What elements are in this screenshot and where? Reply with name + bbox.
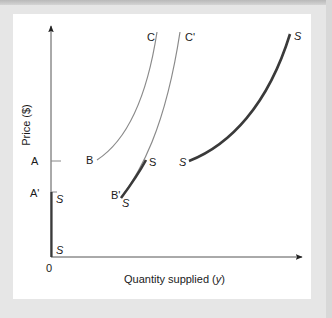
label-s-b-prime: S bbox=[122, 197, 130, 209]
label-zero: 0 bbox=[46, 262, 52, 274]
supply-curve-right bbox=[189, 34, 290, 161]
label-s-right-bottom: S bbox=[179, 156, 187, 168]
x-axis-title-suffix: ) bbox=[221, 273, 225, 285]
x-axis-title-prefix: Quantity supplied ( bbox=[124, 273, 216, 285]
label-c: C bbox=[147, 31, 155, 43]
label-s-a-prime: S bbox=[56, 193, 64, 205]
label-s-right-top: S bbox=[294, 30, 302, 42]
label-a: A bbox=[31, 155, 39, 167]
x-axis-title: Quantity supplied (y) bbox=[124, 273, 225, 285]
label-s-origin: S bbox=[56, 244, 64, 256]
supply-segment-on-c-prime bbox=[121, 160, 146, 198]
curve-c bbox=[97, 32, 157, 160]
label-s-on-c-prime: S bbox=[149, 156, 156, 168]
y-axis-title: Price ($) bbox=[20, 104, 32, 146]
label-c-prime: C' bbox=[185, 31, 195, 43]
supply-chart: Price ($) A A' 0 B B' C C' S S S S S S Q… bbox=[0, 0, 332, 318]
label-b-prime: B' bbox=[111, 189, 120, 201]
label-b: B bbox=[86, 154, 93, 166]
curve-c-prime bbox=[121, 32, 180, 198]
label-a-prime: A' bbox=[30, 187, 39, 199]
